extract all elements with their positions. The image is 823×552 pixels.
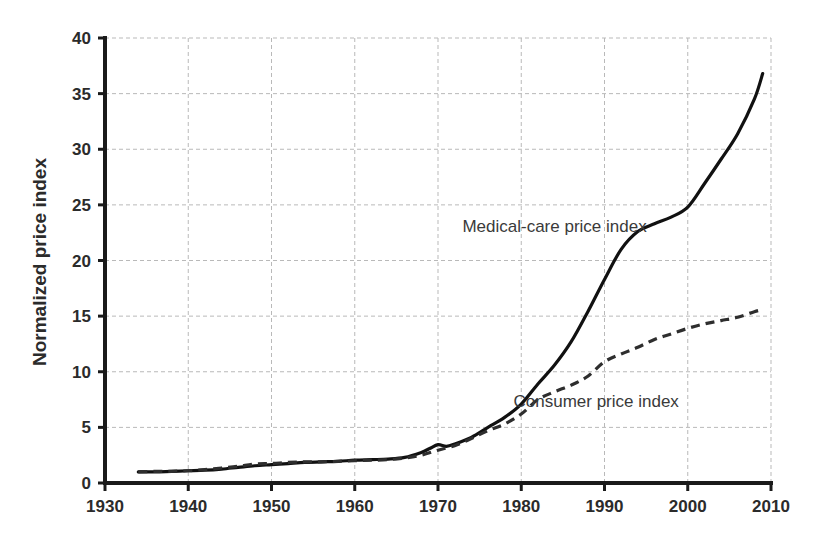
x-tick-label: 2010 bbox=[752, 497, 790, 516]
x-tick-label: 1950 bbox=[253, 497, 291, 516]
y-tick-label: 40 bbox=[72, 29, 91, 48]
x-tick-label: 2000 bbox=[669, 497, 707, 516]
y-tick-label: 0 bbox=[82, 474, 91, 493]
series-annotation-1: Medical-care price index bbox=[462, 217, 647, 236]
series-annotation-2: Consumer price index bbox=[513, 392, 679, 411]
y-tick-label: 15 bbox=[72, 307, 91, 326]
x-tick-label: 1930 bbox=[86, 497, 124, 516]
y-axis-title: Normalized price index bbox=[29, 158, 50, 366]
chart-background bbox=[0, 0, 823, 552]
y-tick-label: 20 bbox=[72, 252, 91, 271]
x-axis-tick-labels: 193019401950196019701980199020002010 bbox=[86, 497, 790, 516]
x-tick-label: 1970 bbox=[419, 497, 457, 516]
y-tick-label: 5 bbox=[82, 418, 91, 437]
y-tick-label: 25 bbox=[72, 196, 91, 215]
x-tick-label: 1940 bbox=[169, 497, 207, 516]
y-tick-label: 10 bbox=[72, 363, 91, 382]
x-tick-label: 1960 bbox=[336, 497, 374, 516]
y-tick-label: 30 bbox=[72, 140, 91, 159]
x-tick-label: 1990 bbox=[586, 497, 624, 516]
x-tick-label: 1980 bbox=[502, 497, 540, 516]
y-tick-label: 35 bbox=[72, 85, 91, 104]
chart-figure: 193019401950196019701980199020002010 051… bbox=[0, 0, 823, 552]
